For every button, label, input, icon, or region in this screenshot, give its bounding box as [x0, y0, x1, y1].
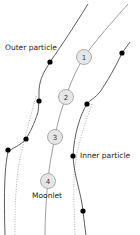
inner-particle-unperturbed-path [74, 104, 92, 235]
outer-particle-marker [5, 147, 10, 152]
moonlet-position-4: 4 [41, 174, 56, 189]
moonlet-position-label: 1 [82, 54, 86, 62]
moonlet-position-label: 4 [46, 178, 51, 186]
diagram-graphic: 1 2 3 4 [0, 0, 140, 235]
inner-particle-marker [84, 101, 89, 106]
outer-particle-label: Outer particle [5, 44, 57, 52]
moonlet-label: Moonlet [32, 192, 62, 200]
inner-particle-marker [119, 50, 124, 55]
moonlet-position-3: 3 [48, 130, 63, 145]
inner-particle-marker [80, 208, 85, 213]
outer-particle-unperturbed-path [15, 96, 36, 235]
inner-particle-path [73, 42, 130, 235]
moonlet-particle-diagram: 1 2 3 4 Outer particle Inner particle Mo… [0, 0, 140, 235]
moonlet-position-1: 1 [77, 50, 92, 65]
moonlet-position-label: 2 [64, 94, 68, 102]
outer-particle-marker [47, 59, 52, 64]
moonlet-position-2: 2 [59, 90, 74, 105]
outer-particle-marker [36, 98, 41, 103]
moonlet-path [45, 4, 128, 235]
moonlet-position-label: 3 [53, 134, 57, 142]
inner-particle-label: Inner particle [80, 152, 130, 160]
inner-particle-marker [70, 153, 75, 158]
outer-particle-marker [23, 136, 28, 141]
